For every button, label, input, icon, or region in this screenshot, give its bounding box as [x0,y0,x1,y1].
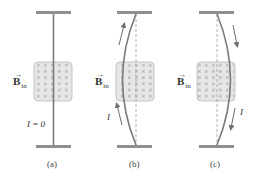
caption-c: (c) [210,159,220,169]
field-label-b: →Bin [95,75,108,87]
field-label-a: →Bin [13,75,26,87]
current-label-c: I [240,107,243,117]
bottom-support-bar-b [117,145,152,148]
top-support-bar-b [117,11,152,14]
panel-c [197,11,237,148]
bottom-support-bar-a [36,145,71,148]
top-support-bar-c [199,11,234,14]
current-arrow-down-bottom-c [231,108,235,128]
magnetic-force-on-wire-diagram: →Bin →Bin →Bin I = 0 I I (a) (b) (c) [0,0,253,183]
panel-b [116,11,154,148]
current-arrow-down-top-c [233,25,237,45]
caption-b: (b) [129,159,140,169]
current-arrow-up-top-b [119,25,124,45]
field-label-c: →Bin [177,75,190,87]
diagram-canvas [0,0,253,183]
current-arrow-up-bottom-b [117,105,122,125]
bottom-support-bar-c [199,145,234,148]
current-label-b: I [107,112,110,122]
field-marks-c [198,63,234,100]
caption-a: (a) [47,159,57,169]
top-support-bar-a [36,11,71,14]
current-label-a: I = 0 [27,119,45,129]
